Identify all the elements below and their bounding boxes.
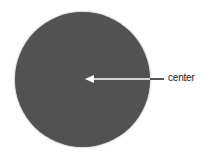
center-label: center [168,72,195,83]
